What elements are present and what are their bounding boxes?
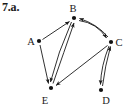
node-dot-a[interactable] — [37, 39, 41, 43]
edge-c-to-d — [101, 46, 110, 85]
node-label-a: A — [27, 36, 35, 47]
figure-container: 7.a. A B C — [0, 0, 131, 108]
node-label-c: C — [115, 37, 122, 48]
edge-b-to-c — [79, 21, 107, 39]
node-dot-c[interactable] — [109, 40, 113, 44]
directed-graph: A B C D E — [0, 0, 131, 108]
node-label-b: B — [69, 3, 76, 14]
edge-b-to-e — [51, 22, 72, 82]
edge-a-to-e — [40, 45, 49, 84]
node-label-d: D — [102, 95, 110, 106]
node-dot-e[interactable] — [49, 86, 53, 90]
node-dot-d[interactable] — [99, 88, 103, 92]
node-dot-b[interactable] — [72, 16, 76, 20]
node-label-e: E — [42, 95, 48, 106]
